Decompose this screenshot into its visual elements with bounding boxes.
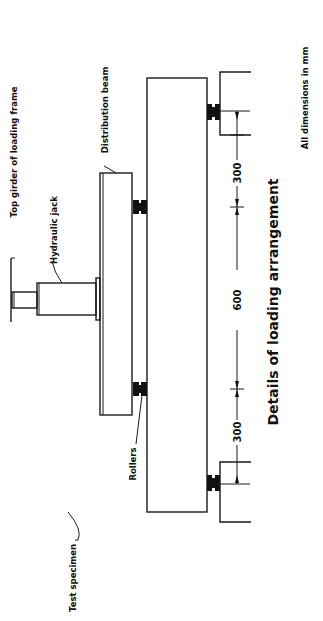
label-top-girder: Top girder of loading frame bbox=[9, 86, 19, 217]
dim-middle-span: 600 bbox=[232, 290, 243, 311]
label-rollers: Rollers bbox=[128, 447, 138, 480]
dim-left-shear-span: 300 bbox=[232, 422, 243, 443]
dim-right-shear-span: 300 bbox=[232, 163, 243, 184]
support-roller-top bbox=[207, 104, 220, 120]
loading-arrangement-diagram: 300 600 300 Details of loading arrangeme… bbox=[0, 0, 323, 621]
label-distribution-beam: Distribution beam bbox=[100, 67, 110, 154]
support-pedestal-top bbox=[220, 72, 251, 135]
diagram-title: Details of loading arrangement bbox=[265, 178, 281, 425]
dimensions-note: All dimensions in mm bbox=[300, 47, 310, 150]
hydraulic-jack bbox=[12, 278, 100, 320]
support-roller-bottom bbox=[207, 475, 220, 491]
roller-lower bbox=[133, 382, 147, 396]
support-pedestal-bottom bbox=[220, 462, 251, 522]
roller-upper bbox=[133, 200, 147, 214]
distribution-beam bbox=[100, 173, 132, 415]
label-hydraulic-jack: Hydraulic jack bbox=[49, 196, 59, 264]
label-test-specimen: Test specimen bbox=[68, 544, 78, 612]
test-specimen bbox=[147, 78, 207, 512]
